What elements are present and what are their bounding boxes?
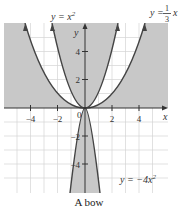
svg-text:x: x	[162, 111, 168, 122]
svg-text:y: y	[73, 27, 79, 38]
svg-text:−2: −2	[53, 114, 63, 124]
label-y-eq-neg4x2: y = −4x2	[119, 173, 156, 185]
label-y-eq-x2: y = x2	[50, 10, 76, 22]
label-third-den: 3	[165, 15, 169, 24]
graph: −4 −2 2 4 4 2 −2 −4 0 x y y = x2 y = 1 3…	[0, 0, 178, 210]
svg-text:−4: −4	[70, 160, 80, 170]
svg-text:4: 4	[76, 47, 81, 57]
label-y-eq-third: y =	[149, 7, 164, 18]
figure-caption: A bow	[0, 196, 178, 208]
svg-text:−2: −2	[70, 132, 80, 142]
label-third-x: x	[172, 7, 178, 18]
svg-text:4: 4	[137, 114, 142, 124]
svg-text:−4: −4	[26, 114, 36, 124]
label-third-num: 1	[165, 4, 169, 13]
svg-text:0: 0	[77, 110, 82, 120]
svg-text:2: 2	[110, 114, 115, 124]
svg-text:2: 2	[76, 75, 81, 85]
